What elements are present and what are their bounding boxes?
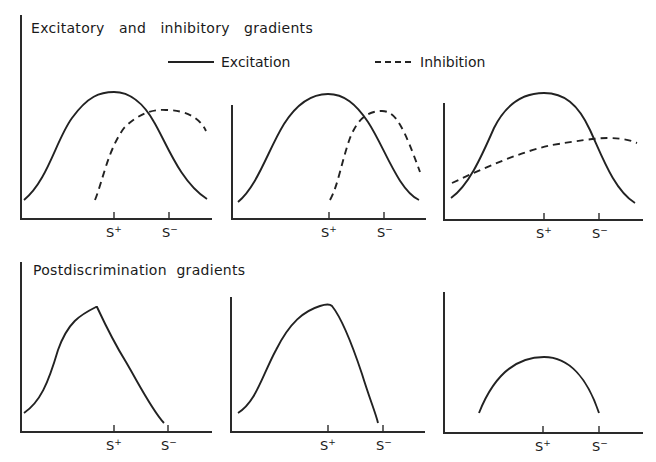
label-s-plus: S+ [106,437,122,453]
excitation-curve [24,92,207,200]
inhibition-curve [330,111,420,200]
excitation-curve [238,94,419,202]
postdiscrimination-curve [24,307,164,423]
axes [232,105,426,219]
label-s-minus: S− [377,224,393,240]
label-s-minus: S− [162,224,178,240]
inhibition-curve [95,110,206,200]
axes [444,103,643,220]
axes [231,297,425,432]
label-s-plus: S+ [535,438,551,454]
label-s-minus: S− [161,437,177,453]
label-s-plus: S+ [321,224,337,240]
axes [444,292,643,433]
panel-top-3: S+ S− [444,93,643,241]
postdiscrimination-curve [238,305,378,424]
legend-inhibition-label: Inhibition [420,54,485,70]
bottom-section-title: Postdiscrimination gradients [33,262,245,278]
top-section-title: Excitatory and inhibitory gradients [31,20,313,36]
gradient-diagram: Excitatory and inhibitory gradients Post… [0,0,656,462]
label-s-minus: S− [592,225,608,241]
label-s-plus: S+ [320,437,336,453]
label-s-minus: S− [376,437,392,453]
axes [21,15,212,219]
legend: Excitation Inhibition [168,54,485,70]
label-s-plus: S+ [536,225,552,241]
panel-bottom-1: S+ S− [21,262,212,453]
panel-bottom-3: S+ S− [444,292,643,454]
panel-bottom-2: S+ S− [231,297,425,453]
panel-top-1: S+ S− [21,15,212,240]
label-s-minus: S− [592,438,608,454]
label-s-plus: S+ [106,224,122,240]
legend-excitation-label: Excitation [221,54,290,70]
panel-top-2: S+ S− [232,94,426,240]
postdiscrimination-curve [479,357,599,413]
